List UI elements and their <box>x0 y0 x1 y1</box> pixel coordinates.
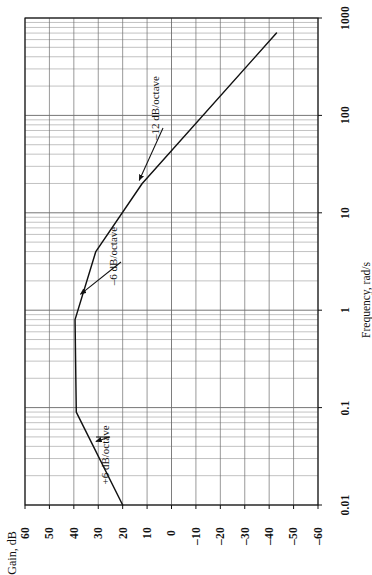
xtick-label-1000: 1000 <box>339 6 351 30</box>
y-axis-title: Gain, dB <box>5 531 20 574</box>
x-axis-title: Frequency, rad/s <box>360 262 372 338</box>
ytick-label-minus60: –60 <box>312 527 324 545</box>
xtick-label-0.1: 0.1 <box>339 400 351 415</box>
ytick-label-20: 20 <box>117 527 129 539</box>
ytick-label-minus50: –50 <box>287 527 299 545</box>
ytick-label-minus10: –10 <box>190 527 202 545</box>
xtick-label-0.01: 0.01 <box>339 495 351 516</box>
ytick-label-minus20: –20 <box>214 527 226 545</box>
ytick-label-minus30: –30 <box>239 527 251 545</box>
xtick-label-1: 1 <box>339 307 351 313</box>
ytick-label-0: 0 <box>165 530 177 536</box>
xtick-label-10: 10 <box>339 207 351 219</box>
ytick-label-minus40: –40 <box>263 527 275 545</box>
ytick-label-40: 40 <box>68 527 80 539</box>
ytick-label-30: 30 <box>92 527 104 539</box>
ytick-label-50: 50 <box>43 527 55 539</box>
ytick-label-10: 10 <box>141 527 153 539</box>
xtick-label-100: 100 <box>339 106 351 124</box>
annotation-minus12-db-per-octave: –12 dB/octave <box>149 76 161 140</box>
annotation-plus6-db-per-octave: +6 dB/octave <box>99 425 111 484</box>
annotation-minus6-db-per-octave: –6 dB/octave <box>107 227 119 285</box>
ytick-label-60: 60 <box>19 527 31 539</box>
